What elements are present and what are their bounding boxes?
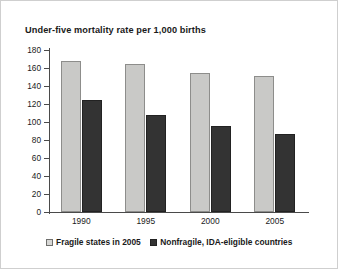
bar-1995-series-1 [125,64,145,213]
x-axis-tick-label: 1995 [126,216,166,226]
legend-label: Nonfragile, IDA-eligible countries [160,237,292,247]
y-axis-tick-label: 0 [36,207,41,217]
bar-2000-series-2 [211,126,231,212]
bar-2005-series-2 [275,134,295,212]
y-axis-tick-mark [44,212,49,213]
legend-entry-1[interactable]: Fragile states in 2005 [46,237,141,247]
y-axis-tick-label: 160 [27,63,41,73]
y-axis-tick-label: 120 [27,99,41,109]
x-axis-tick-label: 1990 [61,216,101,226]
chart-figure: Under-five mortality rate per 1,000 birt… [0,0,338,269]
y-axis-tick-label: 180 [27,45,41,55]
y-axis-tick-label: 60 [32,153,41,163]
y-axis-tick-label: 100 [27,117,41,127]
y-axis-tick-label: 140 [27,81,41,91]
light-square-icon [46,239,53,246]
chart-title: Under-five mortality rate per 1,000 birt… [25,25,206,35]
bar-2005-series-1 [254,76,274,212]
plot-area [49,50,307,212]
bar-1990-series-1 [61,61,81,212]
bar-1995-series-2 [146,115,166,212]
y-axis-tick-label: 20 [32,189,41,199]
y-axis-tick-label: 80 [32,135,41,145]
chart-legend: Fragile states in 2005Nonfragile, IDA-el… [1,237,337,247]
bar-2000-series-1 [190,73,210,213]
dark-square-icon [150,239,157,246]
x-axis-tick-label: 2000 [190,216,230,226]
bar-1990-series-2 [82,100,102,212]
y-axis-tick-label: 40 [32,171,41,181]
y-axis-tick: 0 [44,212,49,213]
legend-label: Fragile states in 2005 [56,237,141,247]
legend-entry-2[interactable]: Nonfragile, IDA-eligible countries [150,237,293,247]
x-axis-tick-label: 2005 [255,216,295,226]
x-axis-line [48,212,309,213]
